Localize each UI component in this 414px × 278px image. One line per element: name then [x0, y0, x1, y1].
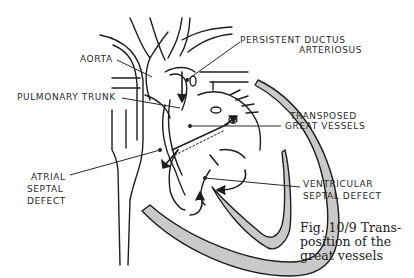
aortic-arch-outline [130, 18, 232, 118]
label-atrial-line3: DEFECT [27, 196, 66, 207]
label-pulmonary-trunk: PULMONARY TRUNK [17, 92, 116, 103]
leader-atrial [70, 150, 160, 175]
label-transposed-line2: GREAT VESSELS [285, 121, 365, 132]
label-atrial-line1: ATRIAL [31, 172, 66, 183]
label-atrial-line2: SEPTAL [27, 184, 63, 195]
transposition-dotted-line [175, 130, 225, 155]
caption-line3: great vessels [300, 249, 401, 263]
caption-line1: Fig. 10/9 Trans- [300, 221, 401, 235]
label-aorta: AORTA [80, 54, 113, 65]
caption-line2: position of the [300, 235, 401, 249]
label-ventricular-line2: SEPTAL DEFECT [303, 191, 382, 202]
transposition-line [172, 124, 228, 150]
label-ductus-line2: ARTERIOSUS [299, 45, 362, 56]
leader-pulmonary-trunk [122, 98, 180, 108]
label-ventricular-line1: VENTRICULAR [303, 179, 373, 190]
figure-caption: Fig. 10/9 Trans- position of the great v… [300, 221, 401, 263]
left-atrium-outline [198, 90, 260, 150]
interventricular-septum [212, 150, 291, 249]
